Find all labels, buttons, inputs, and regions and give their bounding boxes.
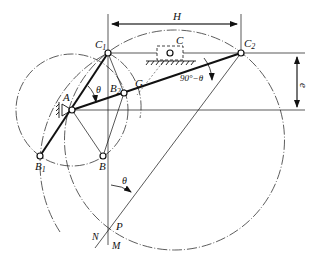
theta-arc-P bbox=[111, 185, 131, 192]
label-C: C bbox=[176, 34, 184, 46]
line-B2-B bbox=[103, 93, 124, 156]
joint-B2 bbox=[121, 90, 127, 96]
label-theta-P: θ bbox=[122, 175, 127, 186]
label-A: A bbox=[62, 91, 70, 103]
label-angle-C2: 90°−θ bbox=[180, 73, 204, 83]
label-B2: B2 bbox=[110, 82, 121, 96]
angle-arc-C2 bbox=[204, 58, 212, 80]
label-theta-A: θ bbox=[96, 84, 101, 95]
construction-arc bbox=[40, 53, 108, 232]
line-C2-P bbox=[95, 53, 241, 248]
link-B1-C1 bbox=[40, 53, 108, 156]
label-N: N bbox=[91, 231, 100, 242]
label-G: G bbox=[135, 77, 143, 89]
label-B: B bbox=[99, 160, 106, 172]
joint-A bbox=[69, 107, 75, 113]
line-A-B bbox=[72, 110, 103, 156]
label-M: M bbox=[111, 240, 121, 251]
joint-C2 bbox=[238, 50, 244, 56]
label-C2: C2 bbox=[244, 37, 255, 51]
joint-B1 bbox=[37, 153, 43, 159]
label-C1: C1 bbox=[95, 38, 106, 52]
label-e: e bbox=[298, 83, 310, 88]
label-B1: B1 bbox=[35, 160, 46, 174]
joint-B bbox=[100, 153, 106, 159]
slider-ground-icon bbox=[146, 61, 196, 65]
label-H: H bbox=[172, 10, 182, 22]
large-circle bbox=[65, 30, 285, 250]
mechanism-diagram: A B B1 B2 C C1 C2 G P N M H e θ θ 90°−θ bbox=[0, 0, 313, 263]
label-P: P bbox=[115, 220, 123, 232]
theta-arc-A bbox=[88, 86, 96, 102]
joint-C bbox=[167, 50, 173, 56]
